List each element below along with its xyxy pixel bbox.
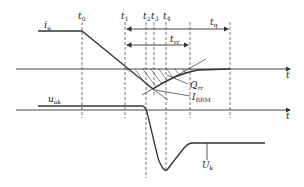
t3-label: t3 [151,11,159,22]
anode-current-waveform [38,31,230,89]
t0-label: t0 [78,11,86,22]
trr-label: trr [170,34,179,45]
t-axis-label-top: t [286,70,290,80]
tq-label: tq [210,17,218,29]
voltage-label: uak [48,94,61,105]
t-axis-label-bottom: t [286,111,290,121]
t1-label: t1 [121,11,128,22]
anode-cathode-voltage-waveform [38,106,265,170]
t4-label: t4 [163,11,171,22]
irrm-label: IRRM [191,92,211,103]
irrm-leader [155,90,190,96]
current-label: ia [44,19,51,31]
qrr-label: Qrr [190,80,203,91]
t2-label: t2 [143,11,151,22]
turn-off-waveform-diagram: ia uak t0 t1 t2 t3 t4 tq trr Qrr IRRM Uk… [0,0,304,187]
uk-label: Uk [202,160,214,171]
